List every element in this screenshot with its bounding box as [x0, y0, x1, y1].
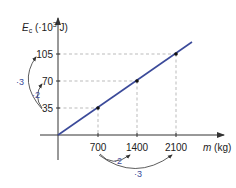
x-multiplier-2: ·2 [114, 156, 122, 166]
y-tick-70: 70 [42, 76, 54, 87]
x-multiplier-3: ·3 [134, 169, 142, 179]
data-point-1400 [135, 79, 139, 83]
data-point-700 [96, 106, 100, 110]
y-tick-35: 35 [42, 103, 54, 114]
y-axis-label: Ec (·103 J) [22, 21, 68, 34]
y-multiplier-3: ·3 [16, 77, 24, 87]
x-tick-700: 700 [90, 142, 107, 153]
x-tick-2100: 2100 [165, 142, 188, 153]
y-multiplier-2: ·2 [32, 90, 40, 100]
data-line [58, 42, 192, 135]
energy-mass-chart: Ec (·103 J) 35 70 105 700 1400 2100 m (k… [0, 0, 236, 188]
x-tick-1400: 1400 [126, 142, 149, 153]
data-point-2100 [174, 52, 178, 56]
x-multiplier-3-arrow [99, 155, 172, 169]
y-multiplier-3-arrow [28, 57, 42, 109]
x-axis-label: m (kg) [203, 142, 231, 153]
y-tick-105: 105 [36, 49, 53, 60]
